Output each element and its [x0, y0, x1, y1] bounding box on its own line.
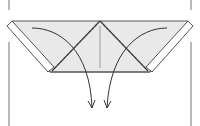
origami-diagram: Paper with side flaps folded diagonally …	[0, 0, 200, 126]
